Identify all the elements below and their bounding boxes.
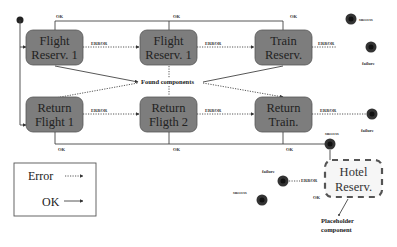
- state-return-fligth-2: Return Fligth 2: [140, 97, 197, 132]
- found-components-link: [203, 66, 283, 82]
- legend-ok-label: OK: [42, 195, 60, 209]
- svg-text:Train.: Train.: [269, 115, 299, 129]
- state-return-flight-1: Return Flight 1: [26, 97, 83, 132]
- svg-text:Reserv. 1: Reserv. 1: [31, 48, 77, 62]
- success-label: success: [359, 17, 373, 22]
- found-components-link: [55, 66, 138, 82]
- failure-label: failure: [362, 61, 375, 66]
- placeholder-label-line2: component: [321, 226, 353, 233]
- ok-label: OK: [286, 147, 294, 152]
- bottom-ok-line: [55, 132, 325, 144]
- ok-label: OK: [58, 147, 66, 152]
- hotel-reserv-placeholder: Hotel Reserv.: [325, 160, 382, 197]
- svg-text:Fligth 2: Fligth 2: [149, 115, 188, 129]
- svg-text:Flight: Flight: [154, 34, 184, 48]
- failure-label: failure: [262, 169, 275, 174]
- state-flight-reserv-1a: Flight Reserv. 1: [26, 30, 83, 65]
- error-label: ERROR: [318, 41, 335, 46]
- success-label: success: [233, 190, 247, 195]
- placeholder-label-line1: Placeholder: [321, 217, 354, 224]
- svg-text:Flight 1: Flight 1: [35, 115, 74, 129]
- state-flight-reserv-1b: Flight Reserv. 1: [140, 30, 197, 65]
- failure-node-bottom: [278, 176, 289, 187]
- found-components-link: [203, 83, 283, 97]
- svg-text:Flight: Flight: [40, 34, 70, 48]
- error-label: ERROR: [91, 41, 108, 46]
- found-components-link: [55, 83, 138, 98]
- ok-label: OK: [56, 14, 64, 19]
- success-node-bottom: [257, 195, 268, 206]
- failure-node-top: [366, 42, 377, 53]
- found-components-label: Found components: [141, 78, 194, 85]
- svg-text:Reserv.: Reserv.: [335, 180, 372, 194]
- svg-text:Train: Train: [270, 34, 297, 48]
- failure-node-mid: [367, 109, 378, 120]
- success-node-top: [346, 14, 357, 25]
- error-label: ERROR: [205, 41, 222, 46]
- error-label: ERROR: [205, 108, 222, 113]
- svg-text:Reserv. 1: Reserv. 1: [145, 48, 191, 62]
- state-diagram: OK OK OK Flight Reserv. 1 Flight Reserv.…: [0, 0, 397, 247]
- failure-label: failure: [361, 128, 374, 133]
- ok-label: OK: [290, 14, 298, 19]
- state-train-reserv: Train Reserv.: [255, 30, 312, 65]
- error-label: ERROR: [320, 108, 337, 113]
- success-label: success: [325, 131, 339, 136]
- legend-error-label: Error: [28, 169, 53, 183]
- ok-label: OK: [313, 195, 321, 200]
- placeholder-pointer: [339, 199, 348, 215]
- error-label: ERROR: [91, 108, 108, 113]
- legend: Error OK: [14, 163, 96, 216]
- svg-text:Reserv.: Reserv.: [265, 48, 302, 62]
- state-return-train: Return Train.: [255, 97, 312, 132]
- error-label: ERROR: [301, 178, 318, 183]
- svg-text:Hotel: Hotel: [340, 165, 368, 179]
- ok-label: OK: [173, 147, 181, 152]
- success-node-mid: [325, 139, 336, 150]
- svg-text:Return: Return: [37, 101, 72, 115]
- svg-text:Return: Return: [151, 101, 186, 115]
- ok-label: OK: [173, 14, 181, 19]
- svg-text:Return: Return: [266, 101, 301, 115]
